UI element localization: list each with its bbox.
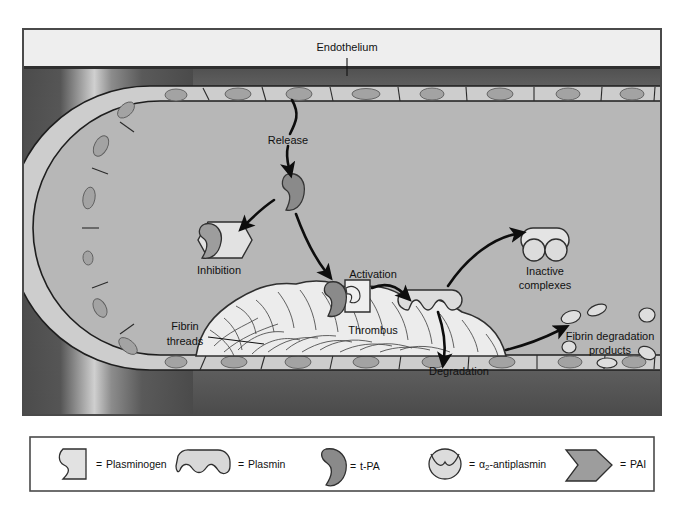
label-inactive-line1: Inactive <box>526 265 564 277</box>
plasmin-on-thrombus <box>398 290 462 310</box>
label-endothelium: Endothelium <box>316 41 377 53</box>
legend-label-pai: PAI <box>630 458 646 470</box>
legend-equals-pai: = <box>620 458 626 470</box>
label-inactive-line2: complexes <box>519 279 572 291</box>
label-degradation: Degradation <box>429 365 489 377</box>
label-fdp-line2: products <box>589 344 632 356</box>
legend-equals-a2antiplasmin: = <box>469 458 475 470</box>
legend-equals-tpa: = <box>350 460 356 472</box>
label-fibrin-threads-line2: threads <box>167 335 204 347</box>
label-inhibition: Inhibition <box>197 264 241 276</box>
fibrinolysis-diagram: Endothelium Release Inhibition Activatio… <box>0 0 684 518</box>
legend-swatch-a2antiplasmin <box>429 449 461 479</box>
legend-label-tpa: t-PA <box>360 460 380 472</box>
label-activation: Activation <box>349 268 397 280</box>
label-thrombus: Thrombus <box>348 324 398 336</box>
legend: = Plasminogen = Plasmin = t-PA = α2-anti… <box>30 437 654 491</box>
label-fibrin-threads-line1: Fibrin <box>171 320 199 332</box>
vessel-panel: Endothelium Release Inhibition Activatio… <box>8 29 661 415</box>
inactive-complex-antiplasmin-left <box>523 239 545 261</box>
label-fdp-line1: Fibrin degradation <box>566 330 655 342</box>
figure-canvas: Endothelium Release Inhibition Activatio… <box>0 0 684 518</box>
legend-label-plasminogen: Plasminogen <box>106 458 167 470</box>
legend-label-plasmin: Plasmin <box>248 458 286 470</box>
legend-equals-plasminogen: = <box>96 458 102 470</box>
inactive-complex-antiplasmin-right <box>545 239 567 261</box>
legend-equals-plasmin: = <box>238 458 244 470</box>
label-release: Release <box>268 134 308 146</box>
